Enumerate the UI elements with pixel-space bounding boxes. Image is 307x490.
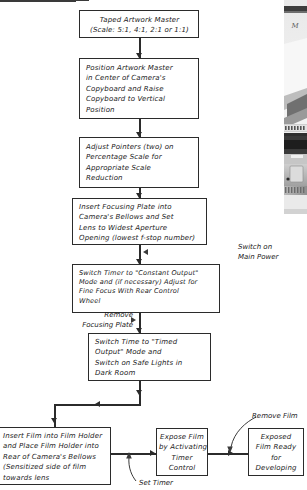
node-line: Control	[159, 463, 205, 473]
tick-remove-focusing-plate	[139, 314, 141, 323]
node-line: Output" Mode and	[95, 347, 205, 357]
arrowhead-6-elbow	[95, 401, 100, 407]
node-line: and Place Film Holder into	[3, 441, 105, 451]
node-line: Switch on Safe Lights in	[95, 358, 205, 368]
flowchart-page: M	[0, 0, 307, 490]
node-line: Switch Timer to "Constant Output"	[79, 269, 214, 278]
annotation-line: Main Power	[238, 252, 278, 262]
photo-caption-fragment: M	[290, 22, 299, 30]
node-adjust-pointers[interactable]: Adjust Pointers (two) on Percentage Scal…	[79, 137, 199, 188]
node-switch-time-timed-output[interactable]: Switch Time to "Timed Output" Mode and S…	[88, 333, 211, 381]
node-line: in Center of Camera's	[86, 73, 193, 83]
node-line: Percentage Scale for	[86, 152, 193, 162]
node-line: Lens to Widest Aperture	[79, 223, 201, 233]
annotation-remove-film: Remove Film	[252, 411, 298, 421]
annotation-switch-on-main-power: Switch on Main Power	[238, 242, 278, 262]
node-line: Rear of Camera's Bellows	[3, 452, 105, 462]
node-line: towards lens	[3, 473, 105, 483]
connector-into-film-box	[54, 404, 56, 428]
node-line: (Scale: 5:1, 4:1, 2:1 or 1:1)	[86, 25, 193, 35]
node-line: Insert Film into Film Holder	[3, 431, 105, 441]
annotation-line: Remove Film	[252, 411, 298, 421]
leader-remove-focusing-plate	[0, 1, 76, 2]
node-insert-focusing-plate[interactable]: Insert Focusing Plate into Camera's Bell…	[72, 198, 207, 245]
arrowhead-6-down	[136, 390, 142, 395]
node-line: Copyboard to Vertical	[86, 94, 193, 104]
node-line: Appropriate Scale	[86, 163, 193, 173]
node-line: Copyboard and Raise	[86, 84, 193, 94]
arrowhead-into-film-box	[51, 418, 57, 423]
node-line: Fine Focus With Rear Control	[79, 287, 214, 296]
node-line: Reduction	[86, 173, 193, 183]
node-line: Expose Film	[159, 432, 205, 442]
node-line: Opening (lowest f-stop number)	[79, 233, 201, 243]
node-line: Position Artwork Master	[86, 63, 193, 73]
node-line: Mode and (if necessary) Adjust for	[79, 278, 214, 287]
node-line: Camera's Bellows and Set	[79, 212, 201, 222]
node-line: (Sensitized side of film	[3, 462, 105, 472]
node-line: Wheel	[79, 297, 214, 306]
arrowhead-main-power	[143, 249, 148, 255]
node-line: Timer	[159, 453, 205, 463]
node-line: Insert Focusing Plate into	[79, 202, 201, 212]
node-position-artwork-master[interactable]: Position Artwork Master in Center of Cam…	[79, 58, 199, 119]
node-line: Adjust Pointers (two) on	[86, 142, 193, 152]
node-line: by Activating	[159, 442, 205, 452]
annotation-set-timer: Set Timer	[139, 478, 173, 488]
annotation-remove-focusing-plate: Remove Focusing Plate	[19, 310, 133, 330]
node-taped-artwork-master[interactable]: Taped Artwork Master (Scale: 5:1, 4:1, 2…	[79, 10, 199, 38]
annotation-line: Remove	[19, 310, 133, 320]
annotation-line: Focusing Plate	[19, 320, 133, 330]
annotation-line: Set Timer	[139, 478, 173, 488]
node-switch-timer-constant-output[interactable]: Switch Timer to "Constant Output" Mode a…	[72, 264, 220, 313]
annotation-line: Switch on	[238, 242, 278, 252]
node-line: Developing	[251, 463, 301, 473]
camera-photo-strip: M	[281, 0, 307, 228]
node-expose-film[interactable]: Expose Film by Activating Timer Control	[156, 428, 208, 476]
node-line: Taped Artwork Master	[86, 15, 193, 25]
node-line: Switch Time to "Timed	[95, 337, 205, 347]
node-line: Position	[86, 105, 193, 115]
node-insert-film-into-holder[interactable]: Insert Film into Film Holder and Place F…	[0, 427, 111, 485]
tick-main-power	[139, 246, 141, 255]
node-line: Dark Room	[95, 368, 205, 378]
